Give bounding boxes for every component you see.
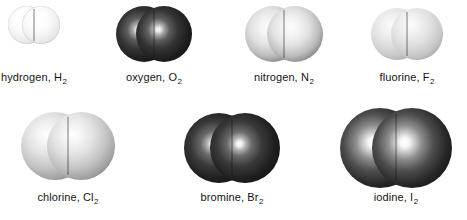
bond-seam-oxygen [154, 10, 155, 57]
molecule-caption-nitrogen: nitrogen, N2 [254, 71, 314, 83]
atom-nitrogen-right [267, 6, 323, 62]
molecule-cell-hydrogen: hydrogen, H2 [8, 6, 60, 44]
molecule-subscript-hydrogen: 2 [62, 77, 67, 86]
molecule-model-hydrogen [8, 6, 60, 44]
atom-iodine-right [372, 108, 452, 188]
molecule-label-nitrogen: nitrogen, N [254, 71, 309, 83]
bond-seam-chlorine [68, 117, 69, 174]
molecule-model-oxygen [116, 6, 192, 62]
molecule-model-iodine [340, 108, 452, 188]
molecule-cell-chlorine: chlorine, Cl2 [21, 112, 115, 180]
molecule-model-bromine [184, 113, 280, 183]
molecule-caption-fluorine: fluorine, F2 [380, 71, 435, 83]
molecule-label-chlorine: chlorine, Cl [37, 191, 93, 203]
molecule-model-fluorine [371, 8, 443, 60]
molecule-cell-oxygen: oxygen, O2 [116, 6, 192, 62]
molecule-subscript-chlorine: 2 [94, 197, 99, 206]
molecule-cell-iodine: iodine, I2 [340, 108, 452, 188]
molecule-caption-oxygen: oxygen, O2 [126, 71, 182, 83]
bond-seam-nitrogen [284, 10, 285, 57]
bond-seam-fluorine [407, 12, 408, 56]
molecule-caption-bromine: bromine, Br2 [201, 191, 264, 203]
molecule-subscript-oxygen: 2 [177, 77, 182, 86]
atom-fluorine-right [391, 8, 443, 60]
bond-seam-hydrogen [34, 9, 35, 41]
atom-bromine-right [210, 113, 280, 183]
molecule-model-nitrogen [245, 6, 323, 62]
atom-chlorine-right [47, 112, 115, 180]
molecule-cell-nitrogen: nitrogen, N2 [245, 6, 323, 62]
molecule-subscript-bromine: 2 [259, 197, 264, 206]
molecule-subscript-fluorine: 2 [430, 77, 435, 86]
bond-seam-iodine [396, 114, 397, 181]
molecule-caption-chlorine: chlorine, Cl2 [37, 191, 98, 203]
diatomic-molecules-figure: hydrogen, H2oxygen, O2nitrogen, N2fluori… [0, 0, 467, 220]
molecule-label-iodine: iodine, I [374, 191, 413, 203]
molecule-subscript-iodine: 2 [413, 197, 418, 206]
molecule-label-hydrogen: hydrogen, H [1, 71, 62, 83]
molecule-cell-bromine: bromine, Br2 [184, 113, 280, 183]
molecule-caption-hydrogen: hydrogen, H2 [1, 71, 67, 83]
atom-hydrogen-right [22, 6, 60, 44]
molecule-label-oxygen: oxygen, O [126, 71, 177, 83]
atom-oxygen-right [136, 6, 192, 62]
molecule-caption-iodine: iodine, I2 [374, 191, 418, 203]
molecule-label-fluorine: fluorine, F [380, 71, 430, 83]
bond-seam-bromine [232, 119, 233, 178]
molecule-label-bromine: bromine, Br [201, 191, 259, 203]
molecule-model-chlorine [21, 112, 115, 180]
molecule-cell-fluorine: fluorine, F2 [371, 8, 443, 60]
molecule-subscript-nitrogen: 2 [309, 77, 314, 86]
